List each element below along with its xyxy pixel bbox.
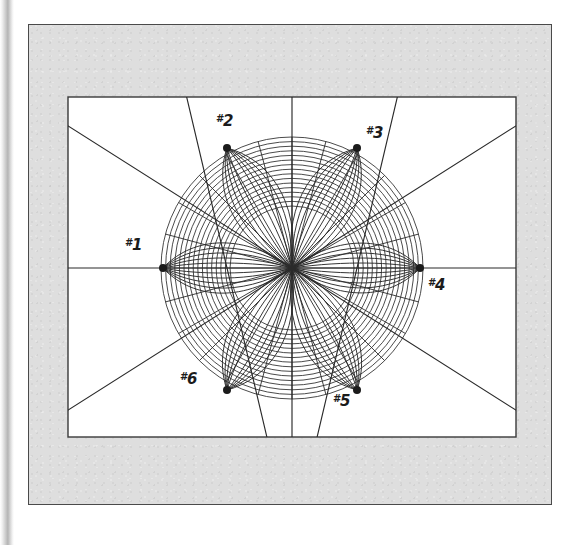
node-marker-5: [353, 386, 361, 394]
node-label-6: #6: [180, 370, 197, 388]
figure-diagram: [0, 0, 576, 545]
node-label-4: #4: [428, 276, 445, 294]
scanned-page: #1 #2 #3 #4 #5 #6: [0, 0, 576, 545]
node-label-5: #5: [333, 392, 350, 410]
node-marker-2: [223, 144, 231, 152]
node-marker-1: [159, 264, 167, 272]
node-marker-6: [223, 386, 231, 394]
node-label-1: #1: [125, 236, 142, 254]
node-label-3: #3: [366, 124, 383, 142]
node-marker-3: [353, 144, 361, 152]
node-marker-4: [416, 264, 424, 272]
node-label-2: #2: [216, 112, 233, 130]
